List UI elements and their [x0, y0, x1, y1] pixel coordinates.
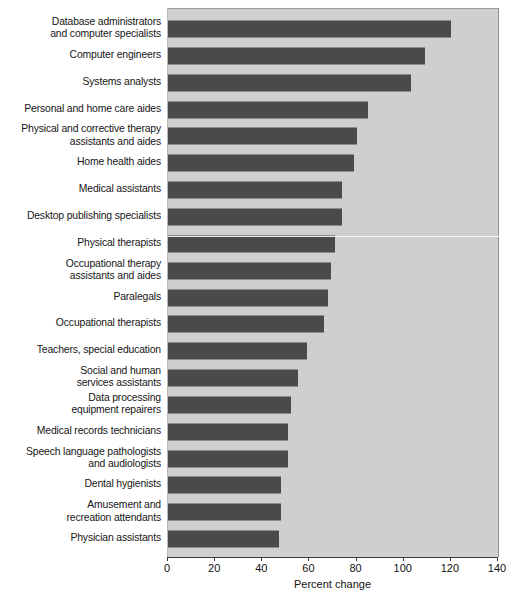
x-tick-label: 100 [394, 562, 412, 574]
bar-chart: Database administrators and computer spe… [0, 0, 515, 598]
bar [168, 155, 354, 172]
x-axis-title: Percent change [167, 578, 498, 590]
bar [168, 531, 279, 548]
bar [168, 101, 368, 118]
x-tick [214, 557, 215, 561]
x-tick-label: 20 [208, 562, 220, 574]
bar [168, 370, 298, 387]
x-tick [167, 557, 168, 561]
scan-artifact [168, 236, 499, 237]
x-tick-label: 140 [488, 562, 506, 574]
x-tick [497, 557, 498, 561]
category-label: Home health aides [0, 156, 165, 168]
category-label: Social and human services assistants [0, 365, 165, 389]
category-label: Amusement and recreation attendants [0, 499, 165, 523]
plot-area [167, 8, 499, 557]
bar [168, 423, 288, 440]
category-label-column: Database administrators and computer spe… [0, 0, 165, 598]
x-tick-label: 40 [255, 562, 267, 574]
bar [168, 74, 411, 91]
category-label: Computer engineers [0, 49, 165, 61]
category-label: Personal and home care aides [0, 102, 165, 114]
category-label: Medical assistants [0, 183, 165, 195]
category-label: Paralegals [0, 290, 165, 302]
bar [168, 128, 357, 145]
category-label: Desktop publishing specialists [0, 210, 165, 222]
x-tick-label: 120 [441, 562, 459, 574]
bar [168, 235, 335, 252]
category-label: Physical and corrective therapy assistan… [0, 123, 165, 147]
category-label: Data processing equipment repairers [0, 392, 165, 416]
category-label: Teachers, special education [0, 344, 165, 356]
bar [168, 21, 451, 38]
category-label: Systems analysts [0, 76, 165, 88]
x-tick [308, 557, 309, 561]
bar [168, 396, 291, 413]
x-tick-label: 0 [164, 562, 170, 574]
bar [168, 450, 288, 467]
bar [168, 289, 328, 306]
category-label: Speech language pathologists and audiolo… [0, 445, 165, 469]
bar [168, 182, 342, 199]
x-tick-label: 80 [349, 562, 361, 574]
bar [168, 343, 307, 360]
x-tick [450, 557, 451, 561]
category-label: Occupational therapists [0, 317, 165, 329]
category-label: Physician assistants [0, 532, 165, 544]
bar [168, 316, 324, 333]
category-label: Dental hygienists [0, 478, 165, 490]
category-label: Physical therapists [0, 237, 165, 249]
x-axis-line [167, 557, 498, 558]
category-label: Occupational therapy assistants and aide… [0, 257, 165, 281]
category-label: Medical records technicians [0, 425, 165, 437]
bar [168, 208, 342, 225]
x-tick [403, 557, 404, 561]
x-tick [356, 557, 357, 561]
category-label: Database administrators and computer spe… [0, 16, 165, 40]
bar [168, 477, 281, 494]
bar [168, 47, 425, 64]
bar [168, 262, 331, 279]
x-tick [261, 557, 262, 561]
bar [168, 504, 281, 521]
x-tick-label: 60 [302, 562, 314, 574]
